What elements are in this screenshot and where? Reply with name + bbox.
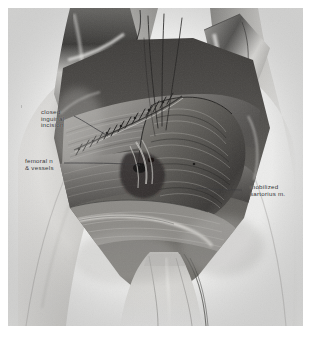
label-line-3: incision: [41, 121, 64, 128]
label-line-2: & vessels: [25, 164, 54, 171]
label-femoral-nerve-and-vessels: femoral n & vessels: [25, 158, 54, 171]
illustration-plate: closed inguinal incision femoral n & ves…: [8, 8, 303, 326]
surgical-illustration-figure: closed inguinal incision femoral n & ves…: [0, 0, 311, 337]
label-line-2: sartorius m.: [250, 190, 285, 197]
paper-speck: [21, 105, 22, 108]
label-mobilized-sartorius-muscle: mobilized sartorius m.: [250, 184, 285, 197]
label-closed-inguinal-incision: closed inguinal incision: [41, 109, 64, 129]
